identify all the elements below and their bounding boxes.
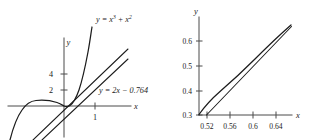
- cubic-label-mid: + x: [116, 15, 130, 24]
- left-ytick-label-2: 2: [49, 86, 53, 95]
- cubic-label-base: y = x: [95, 15, 113, 24]
- right-x-axis-label: x: [295, 110, 300, 120]
- left-xtick-label-1: 1: [93, 113, 97, 122]
- right-xtick-label-0-64: 0.64: [269, 122, 282, 131]
- left-chart-svg: y x 4 2 1 y = x3 + x2 y = 2x − 0.764: [0, 0, 155, 140]
- right-xtick-label-0-52: 0.52: [200, 122, 213, 131]
- right-chart-svg: y x 0.6 0.5 0.4 0.3 0.52 0.56 0.6 0.64: [155, 0, 310, 140]
- cubic-label-exponent-2: 2: [129, 14, 132, 20]
- cubic-curve-label: y = x3 + x2: [95, 14, 132, 24]
- left-x-axis-label: x: [133, 101, 138, 111]
- chart-panel-right: y x 0.6 0.5 0.4 0.3 0.52 0.56 0.6 0.64: [155, 0, 310, 140]
- tangent-line-zoom: [207, 27, 292, 116]
- tangent-line: [42, 59, 128, 140]
- right-xtick-label-0-6: 0.6: [248, 122, 258, 131]
- left-ytick-label-4: 4: [49, 70, 53, 79]
- right-ytick-label-0-4: 0.4: [183, 87, 193, 96]
- left-y-axis-label: y: [66, 37, 71, 47]
- right-ytick-label-0-3: 0.3: [183, 111, 193, 120]
- cubic-curve-zoom: [199, 25, 291, 115]
- figure-container: y x 4 2 1 y = x3 + x2 y = 2x − 0.764: [0, 0, 310, 140]
- right-ytick-label-0-6: 0.6: [183, 37, 193, 46]
- tangent-line-label: y = 2x − 0.764: [98, 86, 148, 95]
- chart-panel-left: y x 4 2 1 y = x3 + x2 y = 2x − 0.764: [0, 0, 155, 140]
- right-xtick-label-0-56: 0.56: [223, 122, 236, 131]
- right-ytick-label-0-5: 0.5: [183, 62, 193, 71]
- right-y-axis-label: y: [193, 6, 198, 16]
